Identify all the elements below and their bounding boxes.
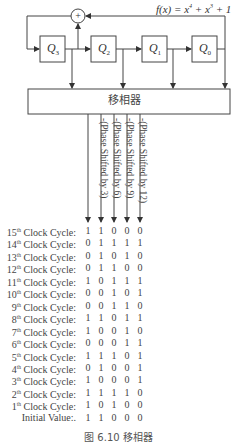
table-row: 14th Clock Cycle: bbox=[0, 236, 76, 249]
bit-value: 1 bbox=[83, 398, 93, 411]
bit-value: 1 bbox=[83, 411, 93, 424]
bit-value: 0 bbox=[83, 236, 93, 249]
bit-value: 0 bbox=[122, 373, 132, 386]
bit-value: 1 bbox=[135, 236, 145, 249]
table-row: 3th Clock Cycle: bbox=[0, 373, 76, 386]
register-q1-label: Q1 bbox=[139, 41, 171, 57]
table-row: 8th Clock Cycle: bbox=[0, 311, 76, 324]
polynomial-label: f(x) = x4 + x3 + 1 bbox=[156, 3, 231, 15]
table-row: Initial Value:. bbox=[0, 411, 76, 424]
bit-value: 0 bbox=[96, 373, 106, 386]
bit-value: 0 bbox=[83, 286, 93, 299]
bit-value: 0 bbox=[109, 336, 119, 349]
bit-value: 1 bbox=[109, 286, 119, 299]
bit-value: 0 bbox=[96, 398, 106, 411]
phase-shifter-label: 移相器 bbox=[30, 89, 218, 113]
bit-value: 1 bbox=[135, 286, 145, 299]
bit-value: 1 bbox=[122, 311, 132, 324]
bit-value: 1 bbox=[83, 373, 93, 386]
bit-value: 1 bbox=[109, 261, 119, 274]
bit-value: 0 bbox=[122, 286, 132, 299]
bit-value: 1 bbox=[135, 373, 145, 386]
xor-plus-icon: + bbox=[73, 9, 83, 23]
bit-value: 1 bbox=[96, 411, 106, 424]
output-label-phase-9: -(Phase Shifted by 9) bbox=[124, 118, 136, 198]
bit-value: 1 bbox=[96, 236, 106, 249]
bit-value: 0 bbox=[122, 411, 132, 424]
bit-value: 1 bbox=[135, 336, 145, 349]
bit-value: 0 bbox=[122, 261, 132, 274]
bit-value: 1 bbox=[96, 311, 106, 324]
register-q0-label: Q0 bbox=[189, 41, 221, 57]
bit-value: 1 bbox=[122, 336, 132, 349]
bit-value: 0 bbox=[109, 311, 119, 324]
table-row: 12th Clock Cycle: bbox=[0, 261, 76, 274]
bit-value: 0 bbox=[122, 398, 132, 411]
table-row: 1th Clock Cycle: bbox=[0, 398, 76, 411]
bit-value: 0 bbox=[135, 411, 145, 424]
bit-value: 1 bbox=[122, 236, 132, 249]
bit-value: 1 bbox=[109, 236, 119, 249]
output-label-phase-3: -(Phase Shifted by 3) bbox=[98, 118, 110, 198]
bit-value: 0 bbox=[109, 411, 119, 424]
bit-value: 0 bbox=[83, 336, 93, 349]
output-label-phase-12: -(Phase Shifted by 12) bbox=[137, 118, 149, 203]
output-label-phase-6: -(Phase Shifted by 6) bbox=[111, 118, 123, 198]
register-q2-label: Q2 bbox=[88, 41, 120, 57]
bit-value: 0 bbox=[109, 373, 119, 386]
table-row: 6th Clock Cycle: bbox=[0, 336, 76, 349]
row-label: Initial Value:. bbox=[2, 411, 76, 424]
bit-value: 1 bbox=[135, 311, 145, 324]
bit-value: 0 bbox=[135, 398, 145, 411]
bit-value: 0 bbox=[83, 261, 93, 274]
bit-value: 1 bbox=[96, 261, 106, 274]
table-row: 10th Clock Cycle: bbox=[0, 286, 76, 299]
bit-value: 0 bbox=[96, 286, 106, 299]
bit-value: 0 bbox=[135, 261, 145, 274]
bit-value: 0 bbox=[96, 336, 106, 349]
bit-value: 1 bbox=[83, 311, 93, 324]
bit-value: 1 bbox=[109, 398, 119, 411]
figure-caption: 图 6.10 移相器 bbox=[0, 429, 237, 444]
register-q3-label: Q3 bbox=[37, 41, 69, 57]
